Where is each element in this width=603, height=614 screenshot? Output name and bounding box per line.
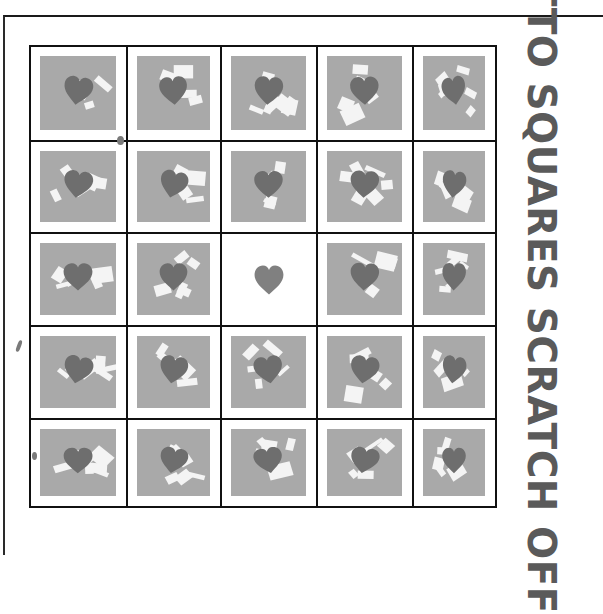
scratch-tile[interactable] <box>231 151 306 222</box>
scratch-cell-r3-c4[interactable] <box>318 234 414 327</box>
scratch-cell-r1-c1[interactable] <box>31 47 128 142</box>
scratch-tile[interactable] <box>137 429 210 496</box>
scratch-tile[interactable] <box>423 56 485 130</box>
scratch-cell-r5-c5[interactable] <box>414 420 495 506</box>
scratch-cell-r3-c1[interactable] <box>31 234 128 327</box>
scratch-cell-r3-c5[interactable] <box>414 234 495 327</box>
scratch-tile[interactable] <box>423 336 485 408</box>
scratch-tile[interactable] <box>231 429 306 496</box>
scratch-tile[interactable] <box>327 56 402 130</box>
scratch-tile[interactable] <box>327 336 402 408</box>
scratch-cell-r4-c3[interactable] <box>222 327 318 420</box>
scratch-cell-r1-c5[interactable] <box>414 47 495 142</box>
scratch-tile[interactable] <box>327 151 402 222</box>
scratch-cell-r1-c4[interactable] <box>318 47 414 142</box>
scratch-cell-r5-c3[interactable] <box>222 420 318 506</box>
scratch-tile[interactable] <box>137 151 210 222</box>
scratch-tile[interactable] <box>231 336 306 408</box>
scratch-cell-r3-c3[interactable] <box>222 234 318 327</box>
scratch-tile[interactable] <box>40 243 116 315</box>
scratch-tile[interactable] <box>40 56 116 130</box>
scratch-grid <box>29 45 497 508</box>
scratch-tile[interactable] <box>40 151 116 222</box>
ink-speck <box>117 136 124 145</box>
scratch-tile[interactable] <box>327 243 402 315</box>
scratch-cell-r1-c2[interactable] <box>128 47 222 142</box>
scratch-cell-r4-c1[interactable] <box>31 327 128 420</box>
scratch-tile[interactable] <box>327 429 402 496</box>
scratch-tile[interactable] <box>423 243 485 315</box>
ink-speck <box>32 452 37 460</box>
scratch-cell-r5-c4[interactable] <box>318 420 414 506</box>
scratch-tile[interactable] <box>423 429 485 496</box>
scratch-tile[interactable] <box>423 151 485 222</box>
scratch-cell-r2-c5[interactable] <box>414 142 495 234</box>
scratch-tile[interactable] <box>137 243 210 315</box>
scratch-cell-r2-c4[interactable] <box>318 142 414 234</box>
scratch-tile[interactable] <box>40 336 116 408</box>
scratch-cell-r3-c2[interactable] <box>128 234 222 327</box>
ticket-title: LOTTO SQUARES SCRATCH OFF <box>522 0 561 614</box>
scratch-cell-r2-c1[interactable] <box>31 142 128 234</box>
scratch-cell-r2-c2[interactable] <box>128 142 222 234</box>
scratch-cell-r1-c3[interactable] <box>222 47 318 142</box>
heart-icon <box>250 259 288 301</box>
scratch-cell-r5-c1[interactable] <box>31 420 128 506</box>
scratch-cell-r4-c4[interactable] <box>318 327 414 420</box>
scratch-cell-r2-c3[interactable] <box>222 142 318 234</box>
scratch-cell-r4-c5[interactable] <box>414 327 495 420</box>
scratch-tile[interactable] <box>137 336 210 408</box>
scratch-tile[interactable] <box>40 429 116 496</box>
scratch-cell-r5-c2[interactable] <box>128 420 222 506</box>
scratch-cell-r4-c2[interactable] <box>128 327 222 420</box>
scratch-tile[interactable] <box>137 56 210 130</box>
scratch-tile[interactable] <box>231 56 306 130</box>
